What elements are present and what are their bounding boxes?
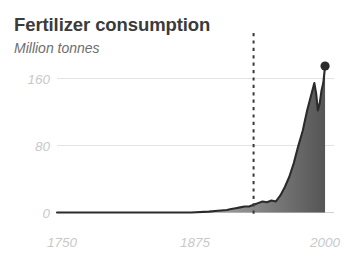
- ytick-label-0: 0: [42, 206, 50, 221]
- series-group: [57, 66, 325, 212]
- fertilizer-consumption-chart: Fertilizer consumption Million tonnes 16…: [0, 0, 361, 270]
- ytick-label-160: 160: [27, 72, 50, 87]
- plot-area: 160 80 0 1750 1875 2000: [0, 0, 361, 270]
- y-axis-tick-labels: 160 80 0: [27, 72, 50, 221]
- xtick-label-1875: 1875: [180, 235, 211, 250]
- xtick-label-1750: 1750: [47, 235, 78, 250]
- end-point-marker: [320, 61, 329, 70]
- x-axis-tick-labels: 1750 1875 2000: [47, 235, 341, 250]
- ytick-label-80: 80: [35, 139, 51, 154]
- series-area-fill: [57, 66, 325, 212]
- xtick-label-2000: 2000: [309, 235, 341, 250]
